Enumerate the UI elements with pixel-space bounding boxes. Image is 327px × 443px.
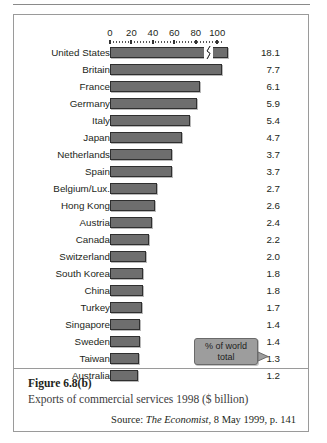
bar-row: Switzerland2.0 [14,249,308,266]
bar-category-label: China [18,284,110,297]
bar-rows: United States18.1Britain7.7France6.1Germ… [14,45,308,385]
bar-category-label: Sweden [18,335,110,348]
caption: Figure 6.8(b) Exports of commercial serv… [28,376,296,407]
bar-category-label: Austria [18,216,110,229]
bar-row: Canada2.2 [14,232,308,249]
bar-row: China1.8 [14,283,308,300]
bar [110,132,182,143]
bar-row: Italy5.4 [14,113,308,130]
bar-row: Belgium/Lux.2.7 [14,181,308,198]
x-tick-label: 100 [209,27,225,38]
bar-chart: 020406080100 United States18.1Britain7.7… [14,15,308,368]
bar [110,64,222,75]
figure-number: Figure 6.8(b) [28,376,296,391]
bar-row: Netherlands3.7 [14,147,308,164]
bar [110,302,142,313]
x-tick-label: 20 [126,27,137,38]
percent-value: 2.0 [242,250,280,263]
x-tick-mark [130,40,132,44]
percent-value: 5.4 [242,114,280,127]
bar-category-label: United States [18,46,110,59]
bar-row: Germany5.9 [14,96,308,113]
bar [110,268,143,279]
bar-category-label: Taiwan [18,352,110,365]
bar-category-label: Hong Kong [18,199,110,212]
bar [110,319,140,330]
bar-category-label: Spain [18,165,110,178]
top-rule [13,4,310,5]
bar-row: Austria2.4 [14,215,308,232]
x-axis-tick-marks [110,40,223,44]
x-axis-tick-labels: 020406080100 [110,27,240,40]
bar-row: Hong Kong2.6 [14,198,308,215]
bar-category-label: Japan [18,131,110,144]
bar-row: France6.1 [14,79,308,96]
percent-value: 3.7 [242,165,280,178]
bar [110,149,172,160]
x-axis-dotted-rule [110,41,223,43]
caption-divider [14,368,308,369]
percent-value: 3.7 [242,148,280,161]
bar [110,336,140,347]
bar [110,98,197,109]
axis-break-icon [204,46,213,59]
bar-category-label: Canada [18,233,110,246]
bar-row: Japan4.7 [14,130,308,147]
bar-category-label: Singapore [18,318,110,331]
bar-category-label: Turkey [18,301,110,314]
bar [110,200,155,211]
percent-value: 2.6 [242,199,280,212]
x-tick-mark [173,40,175,44]
bar-category-label: Germany [18,97,110,110]
x-tick-mark [152,40,154,44]
bar [110,234,149,245]
x-tick-mark [195,40,197,44]
source-line: Source: The Economist, 8 May 1999, p. 14… [28,413,296,427]
bar [110,217,152,228]
percent-value: 1.8 [242,267,280,280]
x-tick-label: 60 [169,27,180,38]
bar [110,353,139,364]
bar [110,285,143,296]
source-publication: The Economist [146,414,209,425]
bar-row: Singapore1.4 [14,317,308,334]
bar [110,251,146,262]
bar-category-label: Italy [18,114,110,127]
bar-category-label: South Korea [18,267,110,280]
bar-row: Britain7.7 [14,62,308,79]
figure-title: Exports of commercial services 1998 ($ b… [28,391,296,407]
percent-value: 4.7 [242,131,280,144]
percent-callout-line1: % of world [195,341,257,352]
percent-value: 2.7 [242,182,280,195]
figure-box: 020406080100 United States18.1Britain7.7… [13,14,309,432]
bar [110,183,157,194]
bar-category-label: Netherlands [18,148,110,161]
bar-category-label: Britain [18,63,110,76]
figure-page: 020406080100 United States18.1Britain7.7… [0,0,327,443]
bar-row: Turkey1.7 [14,300,308,317]
bar-category-label: Switzerland [18,250,110,263]
percent-value: 1.4 [242,318,280,331]
percent-value: 5.9 [242,97,280,110]
bar-category-label: France [18,80,110,93]
percent-callout: % of world total [194,338,258,365]
x-tick-label: 80 [190,27,201,38]
percent-value: 6.1 [242,80,280,93]
percent-value: 1.8 [242,284,280,297]
bar-category-label: Belgium/Lux. [18,182,110,195]
bar-row: Spain3.7 [14,164,308,181]
bar-row: United States18.1 [14,45,308,62]
percent-value: 2.4 [242,216,280,229]
x-tick-mark [109,40,111,44]
source-prefix: Source: [111,414,143,425]
bar-row: South Korea1.8 [14,266,308,283]
percent-value: 7.7 [242,63,280,76]
percent-callout-line2: total [195,352,257,363]
x-tick-label: 0 [107,27,112,38]
percent-value: 18.1 [242,46,280,59]
bar [110,166,172,177]
bar [110,81,200,92]
source-suffix: , 8 May 1999, p. 141 [209,414,297,425]
x-tick-mark [216,40,218,44]
x-tick-label: 40 [148,27,159,38]
